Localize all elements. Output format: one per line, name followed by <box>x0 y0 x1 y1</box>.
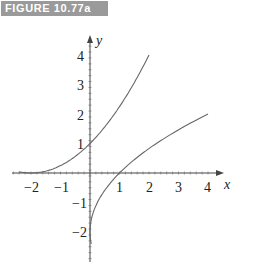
curve-f <box>19 55 149 173</box>
x-tick-label: −1 <box>54 180 69 195</box>
y-tick-label: 3 <box>77 78 84 93</box>
y-tick-label: −2 <box>72 225 87 240</box>
y-axis-label: y <box>94 33 103 48</box>
x-arrow-icon <box>216 170 224 176</box>
x-tick-label: 2 <box>146 180 153 195</box>
y-tick-label: 4 <box>77 49 84 64</box>
x-tick-label: 1 <box>116 180 123 195</box>
x-tick-label: 4 <box>204 180 211 195</box>
y-tick-label: 2 <box>77 108 84 123</box>
y-tick-label: −1 <box>72 196 87 211</box>
chart-plot: −2 −1 1 2 3 4 x −2 −1 1 2 3 4 y <box>0 0 256 270</box>
x-tick-label: 3 <box>175 180 182 195</box>
x-axis-label: x <box>223 177 231 192</box>
y-arrow-icon <box>87 35 93 43</box>
curve-f-inverse <box>90 114 208 244</box>
x-tick-label: −2 <box>24 180 39 195</box>
